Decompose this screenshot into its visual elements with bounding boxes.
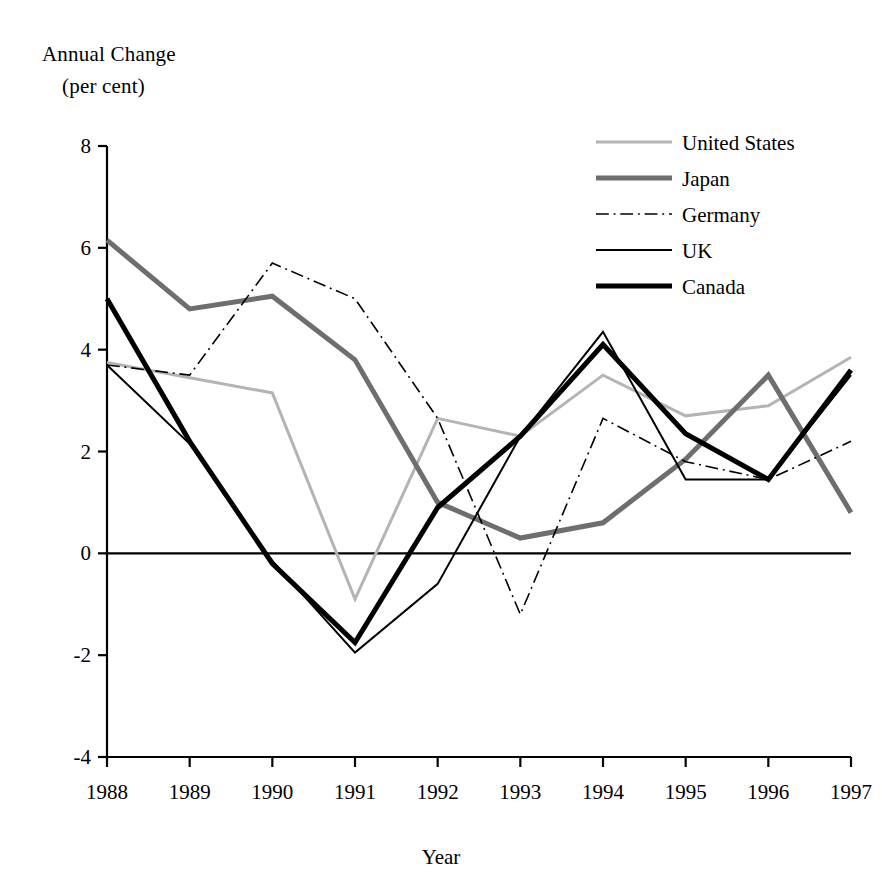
y-tick-label: 8 [81,134,92,158]
x-axis: 1988198919901991199219931994199519961997 [86,757,872,804]
series-line [107,357,851,599]
x-tick-label: 1990 [251,780,293,804]
series-line [107,263,851,614]
x-axis-title: Year [0,845,882,870]
x-tick-label: 1992 [417,780,459,804]
x-tick-label: 1996 [747,780,789,804]
legend-label: Japan [682,167,730,191]
legend-label: Germany [682,203,761,227]
x-tick-label: 1995 [665,780,707,804]
x-tick-label: 1993 [499,780,541,804]
x-tick-label: 1997 [830,780,872,804]
legend-label: United States [682,131,795,155]
chart-legend: United StatesJapanGermanyUKCanada [596,131,795,299]
data-series-group [107,240,851,652]
x-tick-label: 1988 [86,780,128,804]
y-tick-label: -2 [74,643,92,667]
chart-page: Annual Change (per cent) 86420-2-4 19881… [0,0,882,895]
x-tick-label: 1994 [582,780,625,804]
y-tick-label: 6 [81,236,92,260]
x-tick-label: 1989 [169,780,211,804]
y-axis: 86420-2-4 [74,134,108,769]
x-tick-label: 1991 [334,780,376,804]
y-tick-label: 4 [81,338,92,362]
y-tick-label: 0 [81,541,92,565]
y-tick-label: -4 [74,745,92,769]
line-chart-plot: 86420-2-4 198819891990199119921993199419… [0,0,882,895]
y-tick-label: 2 [81,440,92,464]
legend-label: Canada [682,275,746,299]
series-line [107,299,851,643]
series-line [107,332,851,653]
legend-label: UK [682,239,712,263]
